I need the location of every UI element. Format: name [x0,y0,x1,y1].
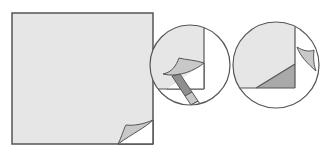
sheet-panel [12,13,153,144]
square-sheet [12,13,153,144]
diagram-canvas [0,0,326,152]
detail-circle-2 [230,20,319,108]
